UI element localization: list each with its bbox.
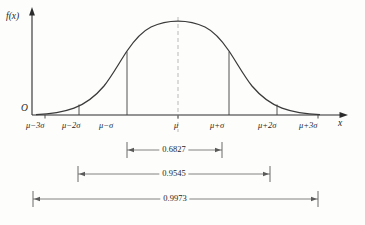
tick-label-mu-plus-sigma: μ+σ bbox=[210, 121, 224, 130]
tick-label-mu-minus-3sigma: μ−3σ bbox=[26, 121, 44, 130]
tick-label-mu: μ bbox=[174, 121, 178, 130]
dimension-arrow-right-3sigma-icon bbox=[311, 197, 317, 202]
y-axis-arrowhead-icon bbox=[29, 7, 35, 16]
tick-label-mu-plus-3sigma: μ+3σ bbox=[299, 121, 317, 130]
diagram-canvas bbox=[0, 0, 365, 225]
x-axis-label: x bbox=[338, 119, 342, 129]
dimension-arrow-left-1sigma-icon bbox=[128, 148, 134, 153]
dimension-arrow-right-1sigma-icon bbox=[215, 148, 221, 153]
tick-label-mu-minus-2sigma: μ−2σ bbox=[62, 121, 80, 130]
normal-distribution-figure: f(x) x O μ−3σ μ−2σ μ−σ μ μ+σ μ+2σ μ+3σ 0… bbox=[0, 0, 365, 225]
dimension-arrow-right-2sigma-icon bbox=[263, 172, 269, 177]
dimension-value-1sigma: 0.6827 bbox=[159, 145, 188, 154]
y-axis-label: f(x) bbox=[6, 12, 19, 22]
origin-label: O bbox=[21, 104, 28, 114]
dimension-arrow-left-2sigma-icon bbox=[79, 172, 85, 177]
dimension-arrow-left-3sigma-icon bbox=[34, 197, 40, 202]
tick-label-mu-minus-sigma: μ−σ bbox=[99, 121, 113, 130]
dimension-value-3sigma: 0.9973 bbox=[160, 194, 189, 203]
dimension-value-2sigma: 0.9545 bbox=[159, 169, 188, 178]
tick-label-mu-plus-2sigma: μ+2σ bbox=[258, 121, 276, 130]
